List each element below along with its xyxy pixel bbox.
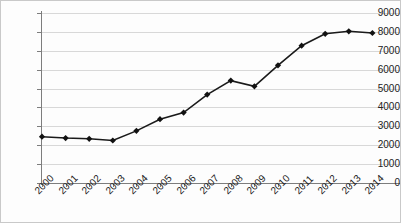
data-point-marker: [204, 92, 210, 98]
gridline: [42, 145, 400, 146]
gridline: [42, 89, 400, 90]
x-tick-label: 2010: [269, 173, 292, 196]
y-tick-label: 4000: [364, 102, 400, 112]
data-point-marker: [63, 135, 69, 141]
data-point-marker: [86, 136, 92, 142]
y-tick-label: 6000: [364, 65, 400, 75]
x-tick-label: 2007: [198, 173, 221, 196]
y-tick-label: 3000: [364, 121, 400, 131]
y-tick-mark: [37, 145, 41, 146]
y-tick-mark: [37, 51, 41, 52]
x-tick-label: 2005: [151, 173, 174, 196]
gridline: [42, 107, 400, 108]
y-tick-label: 7000: [364, 46, 400, 56]
data-point-marker: [110, 137, 116, 143]
x-tick-label: 2013: [340, 173, 363, 196]
y-tick-mark: [37, 13, 41, 14]
gridline: [42, 126, 400, 127]
y-tick-label: 8000: [364, 27, 400, 37]
data-point-marker: [181, 109, 187, 115]
gridline: [42, 164, 400, 165]
x-tick-label: 2011: [293, 174, 315, 196]
x-tick-label: 2002: [80, 173, 103, 196]
x-tick-label: 2000: [33, 173, 56, 196]
y-tick-mark: [37, 126, 41, 127]
y-tick-label: 5000: [364, 84, 400, 94]
y-tick-label: 9000: [364, 8, 400, 18]
y-axis: [41, 11, 42, 185]
y-tick-mark: [37, 164, 41, 165]
data-point-marker: [157, 116, 163, 122]
x-tick-label: 2003: [104, 173, 127, 196]
x-tick-label: 2009: [245, 173, 268, 196]
gridline: [42, 32, 400, 33]
y-tick-mark: [37, 70, 41, 71]
y-tick-mark: [37, 107, 41, 108]
x-tick-label: 2004: [127, 173, 150, 196]
y-tick-mark: [37, 32, 41, 33]
x-tick-label: 2006: [175, 173, 198, 196]
data-point-marker: [275, 62, 281, 68]
gridline: [42, 13, 400, 14]
gridline: [42, 70, 400, 71]
gridline: [42, 51, 400, 52]
y-tick-mark: [37, 89, 41, 90]
line-chart: 0100020003000400050006000700080009000 20…: [0, 0, 401, 223]
x-tick-label: 2001: [57, 173, 80, 196]
x-tick-label: 2012: [316, 173, 339, 196]
data-point-marker: [39, 134, 45, 140]
series-line: [42, 31, 372, 140]
data-point-marker: [228, 78, 234, 84]
x-tick-label: 2008: [222, 173, 245, 196]
data-point-marker: [133, 128, 139, 134]
data-point-marker: [299, 43, 305, 49]
y-tick-label: 1000: [364, 159, 400, 169]
y-tick-label: 2000: [364, 140, 400, 150]
